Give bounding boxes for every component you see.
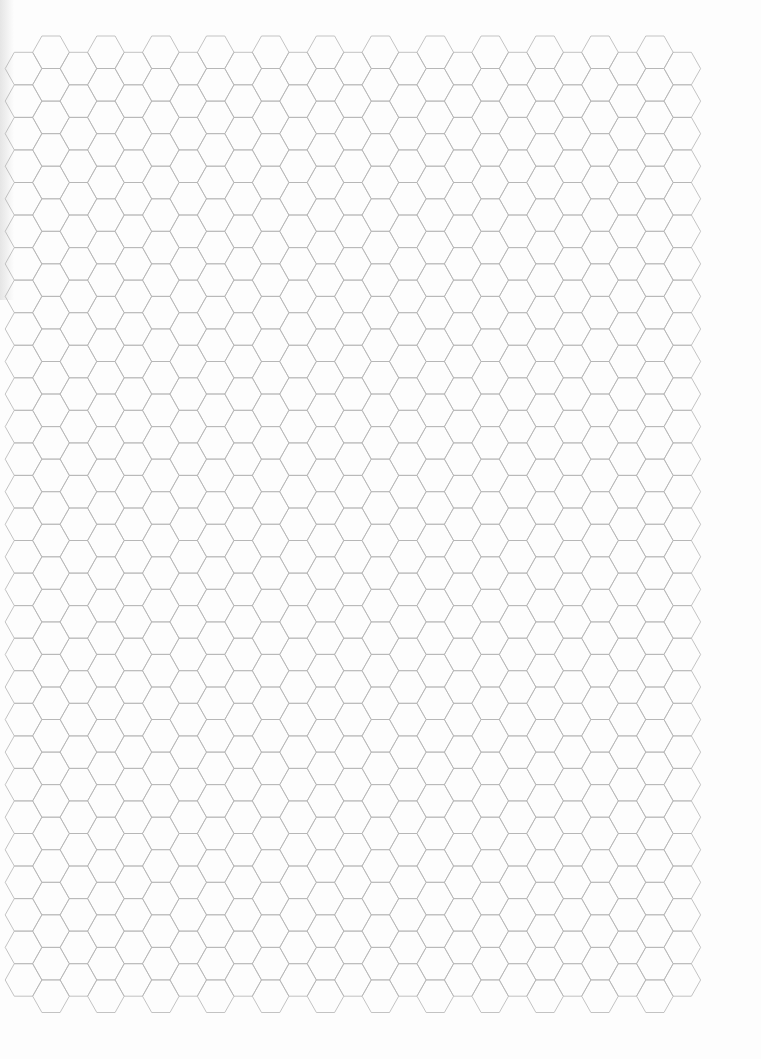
hex-graph-paper xyxy=(0,0,761,1059)
hex-grid xyxy=(0,0,761,1059)
hex-cells xyxy=(5,36,700,1013)
